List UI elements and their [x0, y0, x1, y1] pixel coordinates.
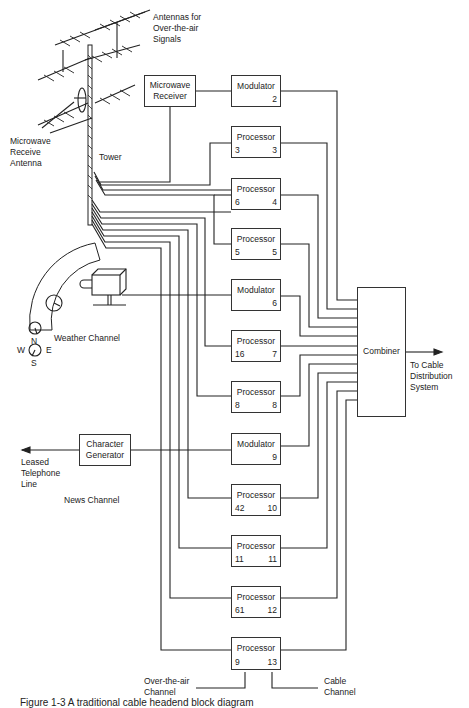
weather-channel-label: Weather Channel — [54, 333, 120, 344]
combiner-box: Combiner — [357, 287, 406, 417]
over-the-air-channel-label: Over-the-air Channel — [144, 676, 189, 698]
processor-8-box: Processor 8 8 — [231, 381, 281, 413]
modulator-6-box: Modulator 6 — [231, 279, 281, 311]
processor-3-box: Processor 3 3 — [231, 126, 281, 158]
processor-11-box: Processor 11 11 — [231, 535, 281, 567]
processor-10-box: Processor 42 10 — [231, 484, 281, 516]
character-generator-box: Character Generator — [79, 434, 131, 466]
to-cable-label: To Cable Distribution System — [410, 360, 453, 393]
modulator-9-box: Modulator 9 — [231, 433, 281, 465]
compass-s: S — [31, 358, 37, 369]
compass-w: W — [17, 345, 25, 356]
microwave-antenna-label: Microwave Receive Antenna — [10, 136, 51, 169]
modulator-2-box: Modulator 2 — [231, 75, 281, 107]
compass-n: N — [31, 336, 37, 347]
tower-icon — [88, 45, 92, 225]
cable-channel-label: Cable Channel — [324, 676, 356, 698]
leased-line-label: Leased Telephone Line — [21, 457, 60, 490]
processor-4-box: Processor 6 4 — [231, 178, 281, 210]
antenna-array-icon — [38, 10, 150, 133]
processor-7-box: Processor 16 7 — [231, 330, 281, 362]
processor-12-box: Processor 61 12 — [231, 586, 281, 618]
tower-label: Tower — [99, 152, 122, 163]
news-channel-label: News Channel — [64, 495, 119, 506]
processor-13-box: Processor 9 13 — [231, 637, 281, 670]
antennas-label: Antennas for Over-the-air Signals — [153, 12, 201, 45]
figure-caption: Figure 1-3 A traditional cable headend b… — [20, 697, 253, 708]
compass-e: E — [46, 345, 52, 356]
microwave-receiver-box: Microwave Receiver — [144, 75, 196, 107]
processor-5-box: Processor 5 5 — [231, 228, 281, 260]
